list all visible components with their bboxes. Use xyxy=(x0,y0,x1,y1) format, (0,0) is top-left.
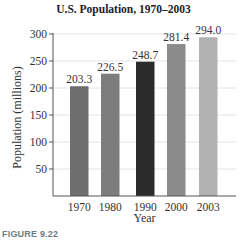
bar-value-label: 226.5 xyxy=(97,61,123,73)
bar-value-label: 281.4 xyxy=(163,31,189,43)
bar-1970 xyxy=(70,86,89,196)
y-tick-label: 100 xyxy=(30,136,48,148)
y-axis-label: Population (millions) xyxy=(10,63,25,173)
y-tick-label: 50 xyxy=(36,163,48,175)
bar-chart-plot: 50100150200250300 19701980199020002003 2… xyxy=(0,0,247,240)
bar-2003 xyxy=(199,37,218,196)
bar-value-label: 248.7 xyxy=(132,49,158,61)
figure-caption: FIGURE 9.22 xyxy=(2,229,58,239)
y-tick-label: 150 xyxy=(30,109,48,121)
y-axis-ticks: 50100150200250300 xyxy=(30,28,53,175)
bar-2000 xyxy=(167,44,186,196)
bar-value-label: 203.3 xyxy=(66,73,92,85)
y-tick-label: 250 xyxy=(30,55,48,67)
bar-value-label: 294.0 xyxy=(195,24,221,36)
y-tick-label: 300 xyxy=(30,28,48,40)
bar-1980 xyxy=(101,74,120,196)
bar-1990 xyxy=(136,62,155,196)
x-axis-label: Year xyxy=(53,211,236,226)
y-tick-label: 200 xyxy=(30,82,48,94)
